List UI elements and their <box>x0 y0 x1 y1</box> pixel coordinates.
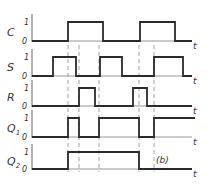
signal-name: Q2 <box>7 155 21 170</box>
level-low-label: 0 <box>22 133 27 142</box>
t-axis-label: t <box>193 169 197 179</box>
signal-row-r: 10tR <box>7 80 197 116</box>
level-high-label: 1 <box>24 148 29 157</box>
t-axis-label: t <box>193 137 197 147</box>
level-high-label: 1 <box>24 84 29 93</box>
dashed-reference-lines <box>68 45 154 172</box>
signal-name: Q1 <box>7 122 20 137</box>
signal-row-s: 10tS <box>7 49 197 86</box>
level-high-label: 1 <box>24 53 29 62</box>
t-axis-label: t <box>193 76 197 86</box>
signal-row-c: 10tC <box>7 14 197 51</box>
level-high-label: 1 <box>24 18 29 27</box>
level-low-label: 0 <box>22 72 27 81</box>
signal-name: C <box>7 26 15 39</box>
t-axis-label: t <box>193 41 197 51</box>
timing-diagram: 10tC10tS10tR10tQ110tQ2 (b) <box>0 0 208 189</box>
level-low-label: 0 <box>22 165 27 174</box>
level-low-label: 0 <box>22 37 27 46</box>
t-axis-label: t <box>193 106 197 116</box>
level-low-label: 0 <box>22 102 27 111</box>
signal-name: R <box>7 91 15 104</box>
waveform <box>32 88 192 106</box>
waveform <box>32 57 192 76</box>
signal-name: S <box>7 61 14 74</box>
figure-label: (b) <box>156 155 169 165</box>
waveform <box>32 118 195 137</box>
level-high-label: 1 <box>24 114 29 123</box>
waveform <box>32 22 192 41</box>
signal-row-q1: 10tQ1 <box>7 110 197 147</box>
